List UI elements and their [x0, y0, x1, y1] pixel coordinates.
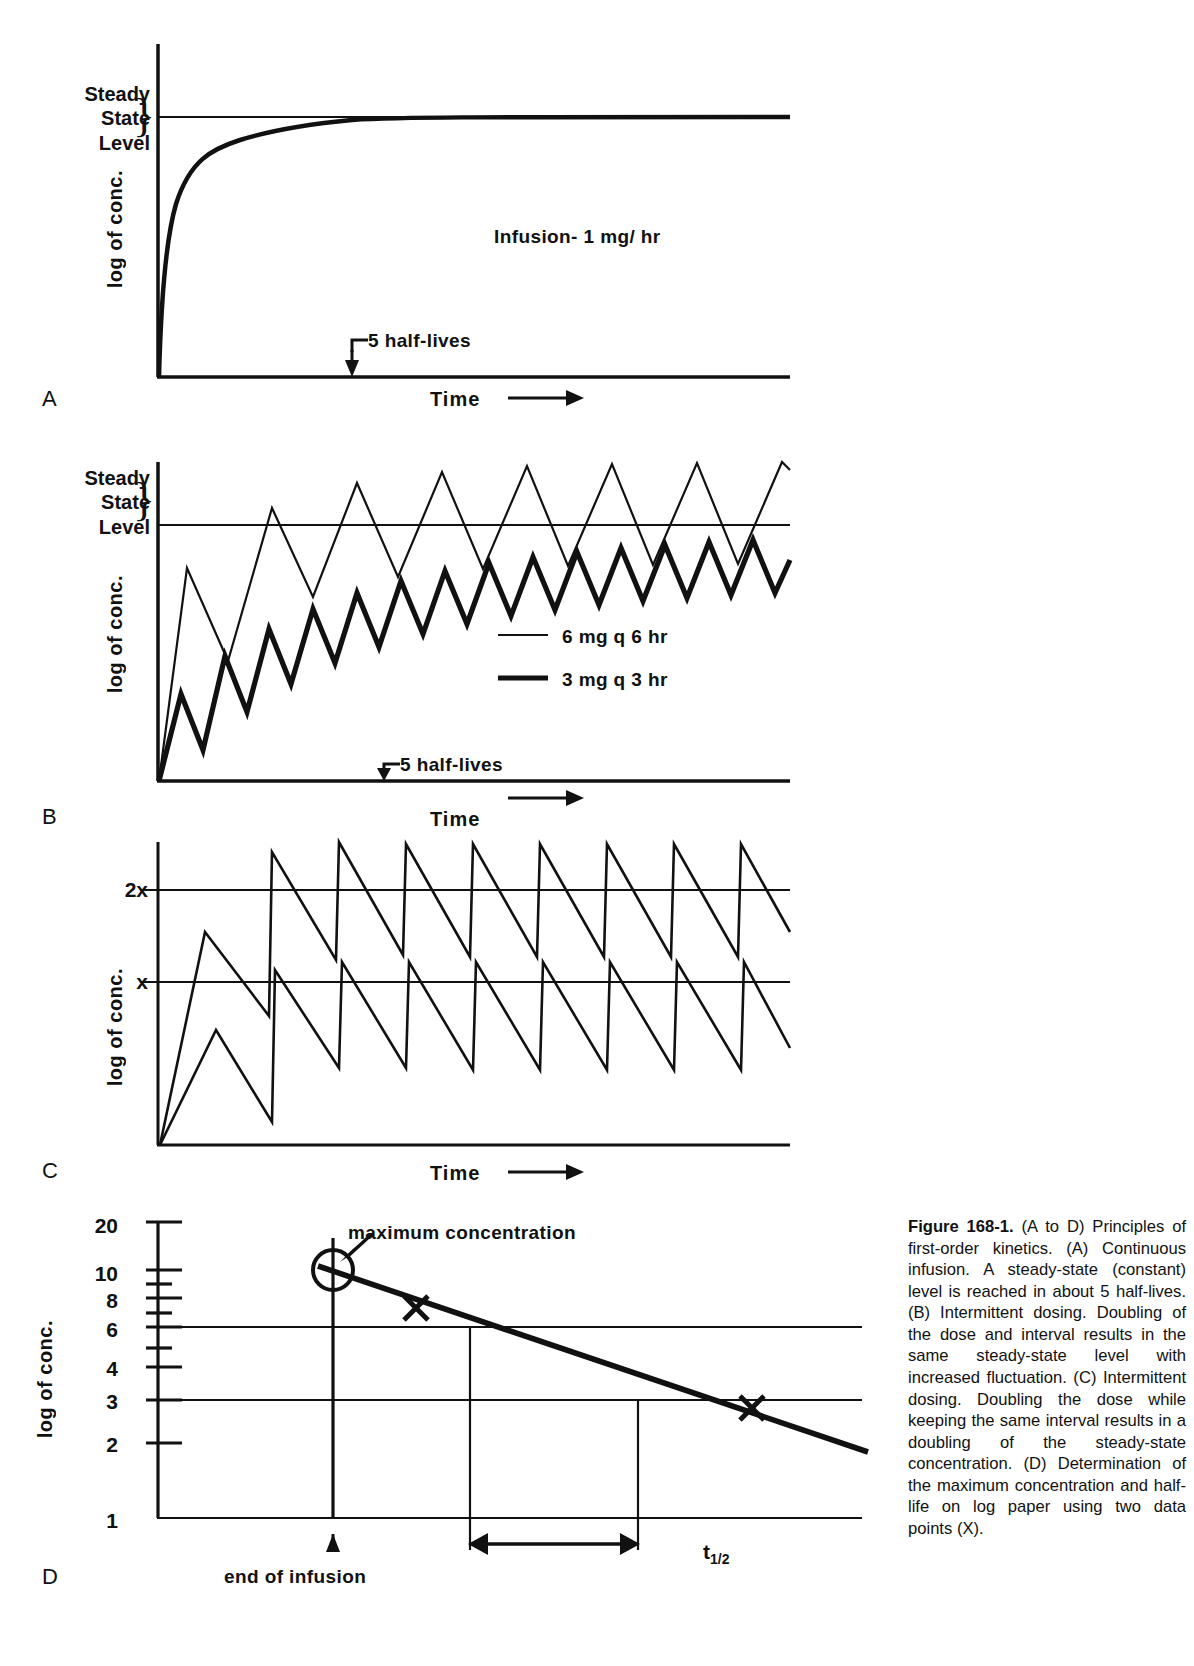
panel-c: log of conc. 2x x Time C: [0, 820, 860, 1210]
time-arrowhead-icon: [566, 1164, 584, 1180]
elimination-line: [318, 1266, 868, 1452]
figure-caption-label: Figure 168-1.: [908, 1217, 1014, 1236]
panel-c-plot: [0, 820, 860, 1210]
panel-d: log of conc. 20 10 8 6 4 3 2 1 maximum c…: [0, 1200, 880, 1666]
panel-d-plot: [0, 1200, 880, 1666]
infusion-curve: [159, 117, 790, 377]
figure-168-1: Steady State Level } log of conc. Infusi…: [0, 0, 1194, 1666]
series-6mg-q6hr: [159, 462, 790, 781]
panel-a-plot: [0, 0, 860, 420]
panel-a: Steady State Level } log of conc. Infusi…: [0, 0, 860, 420]
time-arrowhead-icon: [566, 790, 584, 806]
figure-caption-body: (A to D) Principles of first-order kinet…: [908, 1217, 1186, 1538]
series-3mg-q3hr: [159, 540, 790, 781]
series-single-dose: [160, 962, 790, 1145]
panel-b: Steady State Level } log of conc. 6 mg q…: [0, 420, 860, 820]
time-arrowhead-icon: [566, 390, 584, 406]
half-lives-arrowhead-icon: [345, 360, 359, 377]
max-concentration-pointer: [348, 1234, 372, 1256]
figure-caption: Figure 168-1. (A to D) Principles of fir…: [908, 1216, 1186, 1539]
half-lives-arrowhead-icon: [377, 768, 391, 781]
half-lives-elbow: [352, 340, 368, 352]
panel-b-plot: [0, 420, 860, 820]
